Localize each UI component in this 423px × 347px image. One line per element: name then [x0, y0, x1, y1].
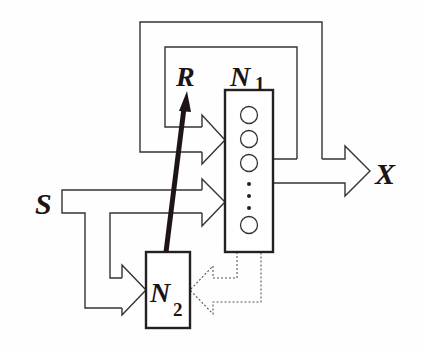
s-arrowhead-n2	[122, 265, 146, 315]
ellipsis-dot	[247, 182, 251, 186]
n1-unit-1	[241, 107, 258, 124]
r-arrowhead-icon	[179, 91, 191, 112]
label-s: S	[35, 187, 52, 220]
label-n2-sub: 2	[173, 299, 183, 320]
diagram-canvas: S X R N 1 N 2	[0, 0, 423, 347]
dotted-n1-to-n2-arrow	[190, 252, 261, 314]
loop-arrowhead	[202, 115, 225, 164]
network-diagram: S X R N 1 N 2	[0, 0, 423, 347]
label-n1-sub: 1	[255, 73, 265, 94]
n1-unit-2	[241, 131, 258, 148]
ellipsis-dot	[247, 206, 251, 210]
r-arrow-shaft	[166, 108, 184, 252]
label-x: X	[374, 157, 396, 190]
n1-unit-3	[241, 155, 258, 172]
label-r: R	[175, 61, 195, 92]
n1-unit-n	[241, 217, 258, 234]
label-n1: N	[229, 61, 252, 92]
s-arrowhead-n1	[202, 179, 225, 226]
ellipsis-dot	[247, 194, 251, 198]
label-n2: N	[149, 277, 172, 308]
